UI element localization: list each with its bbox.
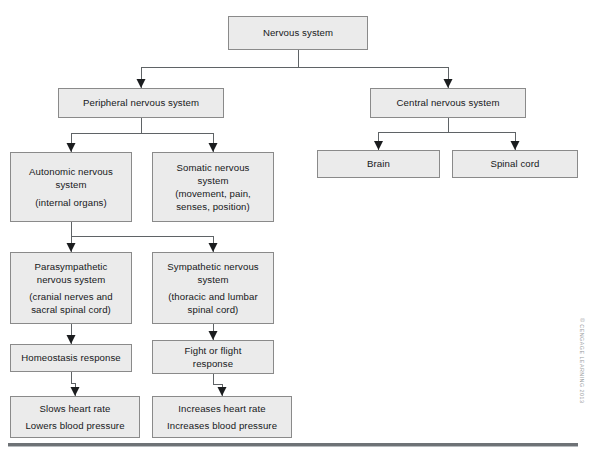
node-increases-heart-rate: Increases heart rateIncreases blood pres…: [152, 396, 292, 438]
arrowhead-parasympathetic-nervous-system: [67, 243, 76, 252]
node-label-line: system: [56, 178, 87, 191]
arrowhead-increases-heart-rate: [218, 387, 227, 396]
bottom-rule: [8, 443, 578, 447]
node-label-line: senses, position): [176, 200, 250, 213]
node-label-line: Parasympathetic: [35, 260, 108, 273]
node-label-line: response: [193, 357, 233, 370]
node-fight-or-flight-response: Fight or flightresponse: [152, 340, 274, 374]
node-autonomic-nervous-system: Autonomic nervoussystem(internal organs): [10, 152, 132, 222]
arrowhead-homeostasis-response: [67, 335, 76, 344]
node-label-line: Peripheral nervous system: [83, 96, 199, 109]
arrowhead-autonomic-nervous-system: [67, 143, 76, 152]
arrowhead-brain: [374, 141, 383, 150]
node-label-line: Autonomic nervous: [29, 165, 113, 178]
node-label-line: (internal organs): [35, 196, 107, 209]
node-homeostasis-response: Homeostasis response: [10, 344, 132, 372]
node-central-nervous-system: Central nervous system: [370, 88, 526, 118]
node-label-line: Spinal cord: [490, 157, 539, 170]
node-label-line: Sympathetic nervous: [167, 260, 259, 273]
node-label-line: nervous system: [37, 273, 106, 286]
node-nervous-system: Nervous system: [228, 16, 368, 50]
node-spinal-cord: Spinal cord: [452, 150, 578, 178]
arrowhead-central-nervous-system: [444, 79, 453, 88]
copyright-credit: © CENGAGE LEARNING 2013: [575, 318, 589, 438]
node-label-line: Increases blood pressure: [167, 419, 277, 432]
node-label-line: Lowers blood pressure: [25, 419, 124, 432]
node-label-line: system: [198, 174, 229, 187]
node-somatic-nervous-system: Somatic nervoussystem(movement, pain,sen…: [152, 152, 274, 222]
node-sympathetic-nervous-system: Sympathetic nervoussystem(thoracic and l…: [152, 252, 274, 324]
node-slows-heart-rate: Slows heart rateLowers blood pressure: [10, 396, 140, 438]
arrowhead-slows-heart-rate: [71, 387, 80, 396]
node-label-line: spinal cord): [188, 303, 239, 316]
node-label-line: system: [198, 273, 229, 286]
node-label-line: Slows heart rate: [40, 402, 111, 415]
node-label-line: Somatic nervous: [177, 161, 250, 174]
flowchart-page: Nervous systemPeripheral nervous systemC…: [0, 0, 590, 456]
node-label-line: sacral spinal cord): [31, 303, 111, 316]
node-label-line: Fight or flight: [185, 344, 242, 357]
node-brain: Brain: [317, 150, 440, 178]
arrowhead-somatic-nervous-system: [209, 143, 218, 152]
copyright-text: © CENGAGE LEARNING 2013: [579, 318, 585, 403]
arrowhead-fight-or-flight-response: [209, 331, 218, 340]
node-label-line: (movement, pain,: [175, 187, 251, 200]
node-peripheral-nervous-system: Peripheral nervous system: [58, 88, 224, 118]
node-label-line: Increases heart rate: [178, 402, 265, 415]
connector-layer: [0, 0, 590, 456]
arrowhead-peripheral-nervous-system: [137, 79, 146, 88]
node-label-line: Homeostasis response: [21, 351, 121, 364]
arrowhead-sympathetic-nervous-system: [209, 243, 218, 252]
node-label-line: Central nervous system: [397, 96, 500, 109]
arrowhead-spinal-cord: [511, 141, 520, 150]
node-label-line: (cranial nerves and: [29, 290, 113, 303]
node-parasympathetic-nervous-system: Parasympatheticnervous system(cranial ne…: [10, 252, 132, 324]
node-label-line: Nervous system: [263, 26, 333, 39]
node-label-line: Brain: [367, 157, 390, 170]
node-label-line: (thoracic and lumbar: [168, 290, 257, 303]
